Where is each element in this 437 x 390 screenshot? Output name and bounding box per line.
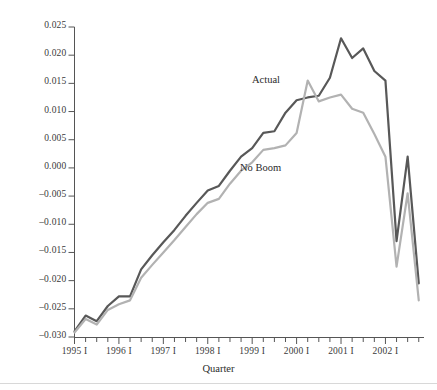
- series-label-actual: Actual: [252, 74, 280, 85]
- y-tick-label: –0.030: [21, 330, 67, 340]
- x-axis-title: Quarter: [0, 363, 437, 374]
- series-line-no-boom: [75, 81, 419, 333]
- y-tick-label: 0.005: [21, 133, 67, 143]
- y-tick-label: –0.010: [21, 217, 67, 227]
- y-tick-label: –0.015: [21, 245, 67, 255]
- x-tick-label: 2002 I: [359, 346, 411, 356]
- data-series-group: [75, 38, 419, 332]
- chart-container: 0.0250.0200.0150.0100.0050.000–0.005–0.0…: [0, 0, 437, 390]
- y-axis-ticks: [69, 27, 75, 337]
- y-tick-label: 0.000: [21, 161, 67, 171]
- y-tick-label: 0.025: [21, 20, 67, 30]
- y-tick-label: 0.015: [21, 76, 67, 86]
- y-tick-label: 0.010: [21, 105, 67, 115]
- axis-lines: [75, 27, 425, 338]
- bottom-divider: [0, 383, 437, 384]
- y-tick-label: –0.005: [21, 189, 67, 199]
- y-tick-label: –0.025: [21, 302, 67, 312]
- y-tick-label: 0.020: [21, 48, 67, 58]
- series-label-no-boom: No Boom: [240, 162, 281, 173]
- series-line-actual: [75, 38, 419, 331]
- x-axis-ticks: [75, 337, 419, 344]
- y-tick-label: –0.020: [21, 274, 67, 284]
